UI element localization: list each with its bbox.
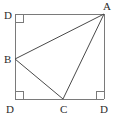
- right-angle-marker-bottom-left: [15, 91, 23, 99]
- vertex-label-c: C: [60, 104, 67, 115]
- geometry-figure: D A B D C D: [0, 0, 115, 118]
- vertex-label-bottom-left: D: [6, 104, 14, 115]
- figure-canvas: [0, 0, 115, 118]
- vertex-label-b: B: [4, 54, 11, 65]
- right-angle-marker-top-left: [15, 14, 23, 22]
- vertex-label-bottom-right: D: [100, 104, 108, 115]
- triangle-side-bc: [15, 59, 63, 99]
- triangle-side-ab: [15, 14, 104, 59]
- right-angle-marker-bottom-right: [96, 91, 104, 99]
- vertex-label-a: A: [103, 1, 111, 12]
- triangle-side-ca: [63, 14, 104, 99]
- vertex-label-top-left: D: [4, 10, 12, 21]
